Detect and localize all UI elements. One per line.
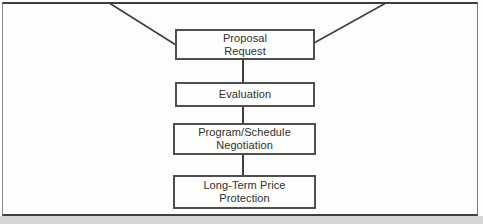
- node-label-line: Request: [224, 45, 266, 58]
- node-proposal-request: Proposal Request: [175, 29, 315, 60]
- connector-evaluation-to-negotiation: [242, 106, 244, 124]
- node-label-line: Proposal: [223, 32, 267, 45]
- node-label-line: Evaluation: [219, 88, 271, 101]
- funnel-line-left: [110, 4, 176, 46]
- node-evaluation: Evaluation: [175, 82, 315, 107]
- node-program-schedule-negotiation: Program/Schedule Negotiation: [173, 123, 316, 155]
- diagram-canvas: Proposal Request Evaluation Program/Sche…: [0, 0, 483, 224]
- node-label-line: Program/Schedule: [198, 126, 291, 139]
- node-long-term-price-protection: Long-Term Price Protection: [173, 175, 316, 209]
- node-label-line: Protection: [219, 192, 270, 205]
- funnel-line-right: [314, 4, 385, 44]
- node-label-line: Long-Term Price: [203, 179, 285, 192]
- connector-proposal-to-evaluation: [242, 59, 244, 83]
- node-label-line: Negotiation: [216, 139, 273, 152]
- connector-negotiation-to-protection: [242, 154, 244, 176]
